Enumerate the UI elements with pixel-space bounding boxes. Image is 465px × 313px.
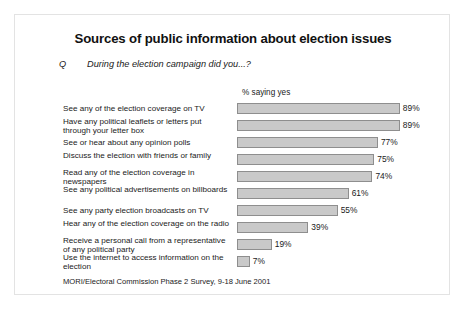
bar-value-label: 39% [311, 222, 328, 233]
slide-frame: Sources of public information about elec… [14, 14, 450, 295]
bar-track [237, 120, 400, 131]
question-marker: Q [59, 59, 66, 69]
bar-value-label: 74% [375, 171, 392, 182]
bar-fill [237, 171, 372, 182]
bar-category-label: Have any political leaflets or letters p… [63, 117, 231, 135]
bar-fill [237, 205, 338, 216]
bar-track [237, 256, 250, 267]
bar-category-label: Discuss the election with friends or fam… [63, 151, 231, 160]
axis-caption: % saying yes [242, 88, 290, 97]
bar-category-label: See any party election broadcasts on TV [63, 206, 231, 215]
bar-category-label: Use the internet to access information o… [63, 253, 231, 271]
bar-track [237, 171, 372, 182]
bar-fill [237, 120, 400, 131]
bar-category-label: Receive a personal call from a represent… [63, 236, 231, 254]
bar-track [237, 137, 378, 148]
bar-category-label: See any of the election coverage on TV [63, 104, 231, 113]
chart-row: Read any of the election coverage in new… [15, 169, 451, 186]
bar-track [237, 222, 308, 233]
bar-fill [237, 137, 378, 148]
bar-value-label: 7% [253, 256, 265, 267]
chart-row: Discuss the election with friends or fam… [15, 152, 451, 169]
bar-value-label: 89% [403, 120, 420, 131]
chart-row: Have any political leaflets or letters p… [15, 118, 451, 135]
bar-chart: See any of the election coverage on TV89… [15, 101, 451, 273]
question-row: Q During the election campaign did you..… [59, 59, 419, 73]
page-title: Sources of public information about elec… [15, 31, 451, 46]
bar-value-label: 77% [381, 137, 398, 148]
bar-value-label: 89% [403, 103, 420, 114]
bar-value-label: 75% [377, 154, 394, 165]
bar-fill [237, 154, 374, 165]
bar-track [237, 188, 349, 199]
question-text: During the election campaign did you...? [87, 59, 251, 69]
chart-row: Use the internet to access information o… [15, 254, 451, 271]
chart-row: Hear any of the election coverage on the… [15, 220, 451, 237]
bar-fill [237, 239, 272, 250]
bar-category-label: See any political advertisements on bill… [63, 185, 231, 194]
source-note: MORI/Electoral Commission Phase 2 Survey… [63, 277, 271, 286]
bar-category-label: See or hear about any opinion polls [63, 138, 231, 147]
bar-fill [237, 256, 250, 267]
chart-row: See or hear about any opinion polls77% [15, 135, 451, 152]
chart-row: See any political advertisements on bill… [15, 186, 451, 203]
bar-value-label: 19% [275, 239, 292, 250]
bar-value-label: 61% [352, 188, 369, 199]
bar-fill [237, 188, 349, 199]
bar-category-label: Read any of the election coverage in new… [63, 168, 231, 186]
bar-track [237, 154, 374, 165]
bar-track [237, 205, 338, 216]
bar-track [237, 239, 272, 250]
bar-fill [237, 222, 308, 233]
bar-track [237, 103, 400, 114]
bar-fill [237, 103, 400, 114]
bar-value-label: 55% [341, 205, 358, 216]
chart-row: See any of the election coverage on TV89… [15, 101, 451, 118]
bar-category-label: Hear any of the election coverage on the… [63, 219, 231, 228]
chart-row: Receive a personal call from a represent… [15, 237, 451, 254]
chart-row: See any party election broadcasts on TV5… [15, 203, 451, 220]
